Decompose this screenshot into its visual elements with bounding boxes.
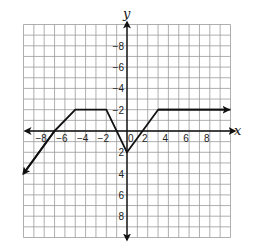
x-tick-label: 0	[128, 133, 134, 144]
axes	[26, 23, 235, 240]
y-tick-label: −2	[113, 105, 125, 116]
x-tick-label: −4	[77, 133, 89, 144]
x-axis-label: x	[234, 123, 242, 138]
y-tick-label: 4	[118, 169, 124, 180]
x-tick-label: 6	[183, 133, 189, 144]
y-tick-label: −4	[113, 83, 125, 94]
x-tick-label: 2	[142, 133, 148, 144]
y-tick-label: 2	[118, 147, 124, 158]
y-tick-label: −6	[113, 62, 125, 73]
x-tick-label: 4	[163, 133, 169, 144]
x-tick-label: 8	[204, 133, 210, 144]
x-tick-label: −2	[98, 133, 110, 144]
y-tick-label: 8	[118, 211, 124, 222]
y-tick-label: 6	[118, 190, 124, 201]
y-tick-label: −8	[113, 41, 125, 52]
coordinate-plane: −8−6−4−2024688642−2−4−6−8 y x	[0, 0, 256, 252]
y-axis-label: y	[122, 6, 131, 21]
x-tick-label: −6	[56, 133, 68, 144]
